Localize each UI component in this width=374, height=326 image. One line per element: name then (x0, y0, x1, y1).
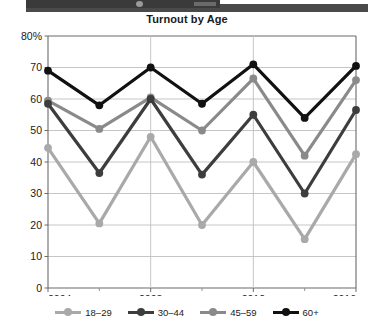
legend-label: 60+ (303, 307, 319, 318)
legend-item-60plus[interactable]: 60+ (273, 307, 319, 318)
y-axis-tick-label: 50 (30, 124, 42, 136)
data-point (95, 220, 103, 228)
y-axis-tick-label: 80% (21, 30, 42, 42)
legend-label: 18–29 (85, 307, 111, 318)
series-60+ (44, 60, 360, 121)
data-point (249, 158, 257, 166)
series-45-59 (44, 75, 360, 160)
data-point (44, 100, 52, 108)
legend-item-30-44[interactable]: 30–44 (128, 307, 184, 318)
data-point (147, 133, 155, 141)
legend-swatch-icon (128, 308, 154, 317)
line-chart: 01020304050607080%2004200820122016 (0, 28, 374, 296)
y-axis-tick-label: 20 (30, 219, 42, 231)
top-bar-blip (194, 2, 216, 6)
series-18-29 (44, 133, 360, 243)
data-point (95, 125, 103, 133)
data-point (198, 221, 206, 229)
page-title: Turnout by Age (0, 13, 374, 25)
data-point (249, 111, 257, 119)
data-point (301, 190, 309, 198)
data-point (352, 62, 360, 70)
data-point (95, 101, 103, 109)
chart-legend: 18–29 30–44 45–59 60+ (0, 302, 374, 322)
top-bar-underline (26, 8, 368, 12)
data-point (198, 171, 206, 179)
legend-swatch-icon (273, 308, 299, 317)
data-point (198, 100, 206, 108)
legend-label: 30–44 (158, 307, 184, 318)
data-point (301, 235, 309, 243)
legend-label: 45–59 (230, 307, 256, 318)
window-top-bar (0, 0, 374, 11)
legend-item-45-59[interactable]: 45–59 (200, 307, 256, 318)
data-point (147, 64, 155, 72)
data-point (352, 106, 360, 114)
legend-swatch-icon (200, 308, 226, 317)
data-point (352, 150, 360, 158)
chart-plot-area: 01020304050607080%2004200820122016 (0, 28, 374, 296)
data-point (352, 76, 360, 84)
x-axis-tick-label: 2008 (139, 293, 163, 296)
data-point (249, 60, 257, 68)
y-axis-tick-label: 60 (30, 93, 42, 105)
data-point (198, 127, 206, 135)
x-axis-tick-label: 2004 (48, 293, 72, 296)
y-axis-tick-label: 40 (30, 156, 42, 168)
data-point (44, 67, 52, 75)
legend-item-18-29[interactable]: 18–29 (55, 307, 111, 318)
x-axis-tick-label: 2012 (242, 293, 266, 296)
y-axis-tick-label: 30 (30, 187, 42, 199)
top-bar-dot-icon (136, 1, 143, 7)
data-point (301, 152, 309, 160)
data-point (249, 75, 257, 83)
x-axis-tick-label: 2016 (333, 293, 357, 296)
data-point (301, 114, 309, 122)
legend-swatch-icon (55, 308, 81, 317)
data-point (95, 169, 103, 177)
y-axis-tick-label: 0 (36, 282, 42, 294)
data-point (44, 144, 52, 152)
y-axis-tick-label: 10 (30, 250, 42, 262)
y-axis-tick-label: 70 (30, 61, 42, 73)
data-point (147, 95, 155, 103)
